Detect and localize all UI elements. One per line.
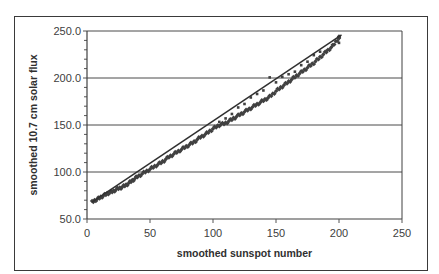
scatter-chart: 50.0100.0150.0200.0250.0050100150200250s…	[0, 0, 439, 274]
x-tick-label: 0	[84, 227, 90, 239]
data-point-offset	[306, 60, 309, 63]
data-point-offset	[287, 73, 290, 76]
y-tick-label: 50.0	[60, 213, 81, 225]
data-point-offset	[319, 50, 322, 53]
y-tick-label: 150.0	[53, 119, 81, 131]
x-tick-label: 50	[144, 227, 156, 239]
data-point-offset	[325, 50, 328, 53]
y-tick-label: 200.0	[53, 72, 81, 84]
data-point-offset	[243, 103, 246, 106]
data-point-offset	[262, 89, 265, 92]
x-tick-label: 250	[393, 227, 411, 239]
fit-line	[92, 35, 341, 202]
data-point-offset	[294, 70, 297, 73]
y-axis-title: smoothed 10.7 cm solar flux	[27, 54, 39, 195]
data-point-offset	[275, 81, 278, 84]
x-tick-label: 100	[204, 227, 222, 239]
x-tick-label: 150	[267, 227, 285, 239]
data-point-offset	[231, 113, 234, 116]
data-point-offset	[237, 106, 240, 109]
data-point-offset	[256, 93, 259, 96]
x-axis-title: smoothed sunspot number	[177, 247, 312, 259]
data-point-offset	[338, 42, 341, 45]
y-tick-label: 250.0	[53, 25, 81, 37]
data-point-offset	[218, 121, 221, 124]
data-point-offset	[224, 117, 227, 120]
y-tick-label: 100.0	[53, 166, 81, 178]
data-point-offset	[331, 44, 334, 47]
x-tick-label: 200	[330, 227, 348, 239]
data-point-offset	[300, 64, 303, 67]
data-point-offset	[268, 76, 271, 79]
